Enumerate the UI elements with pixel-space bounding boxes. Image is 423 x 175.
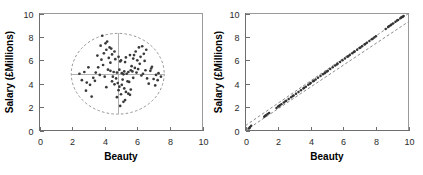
- data-point: [339, 61, 342, 64]
- data-point: [103, 52, 106, 55]
- right-y-axis-title: Salary (£Millions): [213, 31, 224, 113]
- data-point: [78, 72, 81, 75]
- data-point: [81, 79, 84, 82]
- data-point: [138, 62, 141, 65]
- data-point: [155, 74, 158, 77]
- figure-container: 02468100246810 Beauty Salary (£Millions): [0, 0, 423, 175]
- data-point: [317, 77, 320, 80]
- data-point: [109, 61, 112, 64]
- data-point: [138, 46, 141, 49]
- data-point: [106, 40, 109, 43]
- data-point: [119, 105, 122, 108]
- data-point: [284, 100, 287, 103]
- data-point: [135, 71, 138, 74]
- data-point: [402, 15, 405, 18]
- data-point: [292, 95, 295, 98]
- data-point: [85, 89, 88, 92]
- data-point: [129, 88, 132, 91]
- data-point: [368, 40, 371, 43]
- data-point: [326, 70, 329, 73]
- data-point: [353, 51, 356, 54]
- data-point: [94, 71, 97, 74]
- y-tick-label: 10: [23, 10, 33, 20]
- right-tick-marks: [246, 15, 410, 132]
- data-point: [121, 78, 124, 81]
- data-point: [388, 25, 391, 28]
- x-tick-label: 10: [198, 137, 208, 147]
- data-point: [123, 70, 126, 73]
- left-annotation-ellipse: [71, 33, 164, 114]
- data-point: [132, 57, 135, 60]
- data-point: [143, 60, 146, 63]
- data-point: [375, 35, 378, 38]
- x-tick-label: 4: [309, 137, 314, 147]
- data-point: [250, 125, 253, 128]
- x-tick-label: 10: [404, 137, 414, 147]
- data-point: [319, 75, 322, 78]
- data-point: [371, 37, 374, 40]
- data-point: [144, 69, 147, 72]
- data-point: [248, 127, 251, 129]
- y-tick-label: 4: [234, 80, 239, 90]
- data-point: [98, 74, 101, 77]
- right-data-points: [248, 15, 405, 130]
- data-point: [139, 55, 142, 58]
- x-tick-label: 0: [38, 137, 43, 147]
- data-point: [129, 54, 132, 57]
- y-tick-label: 8: [28, 33, 33, 43]
- data-point: [89, 84, 92, 87]
- scatter-chart-left: 02468100246810 Beauty Salary (£Millions): [0, 0, 211, 175]
- data-point: [384, 28, 387, 31]
- data-point: [280, 103, 283, 106]
- data-point: [295, 92, 298, 95]
- y-tick-label: 4: [28, 80, 33, 90]
- data-point: [297, 91, 300, 94]
- y-tick-label: 0: [234, 127, 239, 137]
- y-tick-label: 6: [28, 56, 33, 66]
- data-point: [390, 23, 393, 26]
- data-point: [107, 68, 110, 71]
- scatter-chart-right: 02468100246810 Beauty Salary (£Millions): [212, 0, 423, 175]
- data-point: [264, 115, 267, 118]
- data-point: [116, 82, 119, 85]
- left-chart-svg: 02468100246810 Beauty Salary (£Millions): [0, 0, 211, 175]
- data-point: [128, 81, 131, 84]
- data-point: [364, 43, 367, 46]
- data-point: [303, 87, 306, 90]
- data-point: [136, 59, 139, 62]
- data-point: [117, 55, 120, 58]
- data-point: [118, 85, 121, 88]
- data-point: [396, 19, 399, 22]
- data-point: [134, 50, 137, 53]
- data-point: [268, 112, 271, 115]
- data-point: [123, 87, 126, 90]
- x-tick-label: 8: [374, 137, 379, 147]
- x-tick-label: 0: [244, 137, 249, 147]
- data-point: [356, 49, 359, 52]
- data-point: [336, 63, 339, 66]
- data-point: [118, 68, 121, 71]
- data-point: [96, 54, 99, 57]
- data-point: [113, 50, 116, 53]
- data-point: [142, 53, 145, 56]
- data-point: [120, 93, 123, 96]
- data-point: [97, 66, 100, 69]
- data-point: [116, 96, 119, 99]
- data-point: [111, 53, 114, 56]
- data-point: [137, 68, 140, 71]
- data-point: [156, 79, 159, 82]
- left-x-axis-title: Beauty: [104, 151, 138, 162]
- data-point: [119, 60, 122, 63]
- data-point: [359, 46, 362, 49]
- data-point: [344, 57, 347, 60]
- data-point: [105, 48, 108, 51]
- data-point: [127, 71, 130, 74]
- data-point: [101, 34, 104, 37]
- left-data-points: [78, 34, 162, 107]
- data-point: [150, 67, 153, 70]
- data-point: [94, 79, 97, 82]
- data-point: [131, 70, 134, 73]
- x-tick-label: 8: [168, 137, 173, 147]
- data-point: [117, 89, 120, 92]
- data-point: [100, 58, 103, 61]
